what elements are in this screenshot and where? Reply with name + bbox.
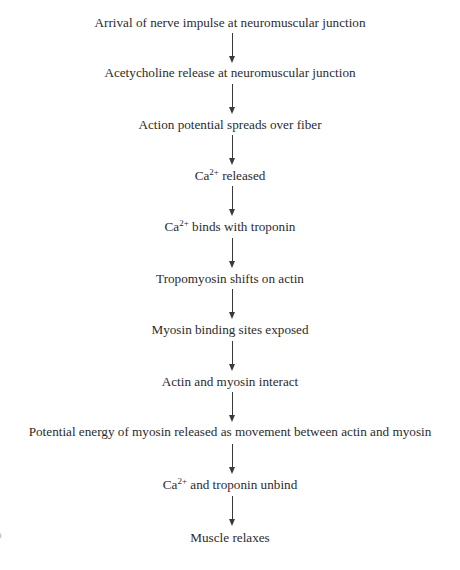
charge-superscript: 2+ <box>209 167 219 177</box>
step-label: and troponin unbind <box>187 477 297 492</box>
down-arrow-icon <box>231 392 234 422</box>
down-arrow-icon <box>231 238 234 268</box>
calcium-symbol: Ca <box>163 477 178 492</box>
page-number: 5 <box>0 531 1 540</box>
down-arrow-icon <box>231 186 234 216</box>
flow-step-tropomyosin-shifts: Tropomyosin shifts on actin <box>0 271 460 287</box>
flow-step-nerve-impulse-arrival: Arrival of nerve impulse at neuromuscula… <box>0 15 460 31</box>
down-arrow-icon <box>231 496 234 526</box>
step-label: Acetycholine release at neuromuscular ju… <box>104 65 355 80</box>
step-label: Arrival of nerve impulse at neuromuscula… <box>95 15 366 30</box>
down-arrow-icon <box>231 341 234 371</box>
flow-step-acetylcholine-release: Acetycholine release at neuromuscular ju… <box>0 65 460 81</box>
down-arrow-icon <box>231 444 234 474</box>
flow-step-potential-energy-released: Potential energy of myosin released as m… <box>0 424 460 440</box>
down-arrow-icon <box>231 33 234 63</box>
calcium-symbol: Ca <box>165 219 180 234</box>
charge-superscript: 2+ <box>177 476 187 486</box>
step-label: Potential energy of myosin released as m… <box>29 424 432 439</box>
down-arrow-icon <box>231 84 234 114</box>
step-label: Tropomyosin shifts on actin <box>156 271 304 286</box>
step-label: Muscle relaxes <box>190 530 269 545</box>
step-label: released <box>219 168 266 183</box>
step-label: Myosin binding sites exposed <box>151 322 308 337</box>
flow-step-calcium-released: Ca2+ released <box>0 168 460 184</box>
flow-step-muscle-relaxes: Muscle relaxes <box>0 530 460 546</box>
flow-step-action-potential-spreads: Action potential spreads over fiber <box>0 117 460 133</box>
step-label: Action potential spreads over fiber <box>138 117 321 132</box>
down-arrow-icon <box>231 135 234 165</box>
step-label: binds with troponin <box>189 219 296 234</box>
flow-step-calcium-binds-troponin: Ca2+ binds with troponin <box>0 219 460 235</box>
flow-step-calcium-troponin-unbind: Ca2+ and troponin unbind <box>0 477 460 493</box>
calcium-symbol: Ca <box>195 168 210 183</box>
flow-step-binding-sites-exposed: Myosin binding sites exposed <box>0 322 460 338</box>
step-label: Actin and myosin interact <box>162 374 299 389</box>
flow-step-actin-myosin-interact: Actin and myosin interact <box>0 374 460 390</box>
down-arrow-icon <box>231 289 234 319</box>
charge-superscript: 2+ <box>179 218 189 228</box>
